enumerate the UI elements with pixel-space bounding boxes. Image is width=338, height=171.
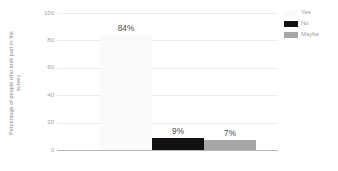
legend-swatch-icon — [284, 10, 298, 17]
y-axis-tick-label: 80 — [34, 37, 54, 44]
gridline — [57, 123, 278, 124]
bar-chart: Percentage of people who took part in th… — [0, 0, 338, 171]
y-axis-title-line-1: Percentage of people who took part in th… — [8, 31, 14, 135]
bar-maybe — [204, 140, 256, 150]
gridline — [57, 68, 278, 69]
y-axis-title: Percentage of people who took part in th… — [0, 0, 30, 165]
gridline — [57, 95, 278, 96]
gridline — [57, 40, 278, 41]
bar-no — [152, 138, 204, 150]
legend-item-maybe[interactable]: Maybe — [284, 30, 338, 40]
legend-item-label: No — [301, 20, 309, 27]
y-axis-tick-label: 0 — [34, 147, 54, 154]
y-axis-tick-label: 100 — [34, 10, 54, 17]
legend-item-yes[interactable]: Yes — [284, 8, 338, 18]
y-axis-tick-label: 20 — [34, 119, 54, 126]
y-axis-tick-label: 40 — [34, 92, 54, 99]
bar-value-label: 84% — [100, 24, 152, 33]
legend-swatch-icon — [284, 32, 298, 39]
bar-value-label: 7% — [204, 129, 256, 138]
bar-value-label: 9% — [152, 127, 204, 136]
y-axis-title-line-2: survey — [15, 31, 22, 135]
legend: YesNoMaybe — [284, 8, 338, 41]
legend-item-label: Maybe — [301, 31, 319, 38]
legend-item-no[interactable]: No — [284, 19, 338, 29]
legend-item-label: Yes — [301, 9, 311, 16]
y-axis-tick-label: 60 — [34, 64, 54, 71]
x-axis-line — [57, 150, 278, 151]
gridline — [57, 13, 278, 14]
legend-swatch-icon — [284, 21, 298, 28]
bar-yes — [100, 35, 152, 150]
